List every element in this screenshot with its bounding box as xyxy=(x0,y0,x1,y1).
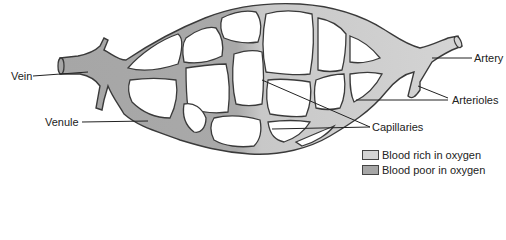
vein-label: Vein xyxy=(11,70,32,82)
capillaries-label: Capillaries xyxy=(372,121,423,133)
legend-swatch-oxygen-poor xyxy=(362,165,379,175)
legend-item-oxygen-rich: Blood rich in oxygen xyxy=(362,149,481,161)
legend-label-oxygen-rich: Blood rich in oxygen xyxy=(382,149,481,161)
venule-label: Venule xyxy=(45,116,79,128)
artery-label: Artery xyxy=(474,52,503,64)
legend-label-oxygen-poor: Blood poor in oxygen xyxy=(382,164,485,176)
arterioles-leader-1 xyxy=(418,86,448,98)
arterioles-label: Arterioles xyxy=(452,94,498,106)
legend-item-oxygen-poor: Blood poor in oxygen xyxy=(362,164,485,176)
vein-opening xyxy=(58,58,64,74)
legend-swatch-oxygen-rich xyxy=(362,150,379,160)
